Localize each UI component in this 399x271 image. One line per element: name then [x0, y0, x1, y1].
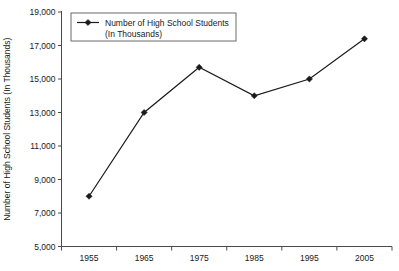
data-point-marker	[86, 193, 92, 199]
line-chart: 5,0007,0009,00011,00013,00015,00017,0001…	[0, 0, 399, 271]
y-tick-label: 17,000	[30, 41, 56, 51]
y-tick-label: 5,000	[34, 242, 56, 252]
x-tick-label: 1995	[300, 253, 319, 263]
y-tick-label: 11,000	[30, 141, 56, 151]
y-tick-label: 7,000	[34, 208, 56, 218]
x-tick-label: 1975	[190, 253, 209, 263]
legend-label-line2: (In Thousands)	[105, 29, 162, 39]
chart-canvas: 5,0007,0009,00011,00013,00015,00017,0001…	[0, 0, 399, 271]
x-tick-label: 2005	[355, 253, 374, 263]
data-point-marker	[251, 93, 257, 99]
x-tick-label: 1965	[135, 253, 154, 263]
y-tick-label: 9,000	[34, 175, 56, 185]
y-axis-title: Number of High School Students (In Thous…	[2, 38, 12, 221]
series-line-high-school-students	[89, 39, 364, 196]
y-tick-label: 13,000	[30, 108, 56, 118]
y-tick-label: 15,000	[30, 74, 56, 84]
x-tick-label: 1985	[245, 253, 264, 263]
legend-label-line1: Number of High School Students	[105, 18, 229, 28]
x-tick-label: 1955	[80, 253, 99, 263]
y-tick-label: 19,000	[30, 7, 56, 17]
